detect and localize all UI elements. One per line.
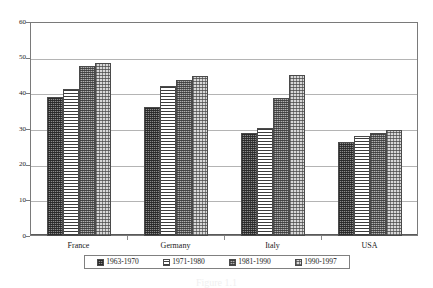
legend-item-1990-1997: 1990-1997: [295, 258, 337, 266]
x-tick-mark-2: [224, 236, 225, 240]
x-tick-mark-1: [127, 236, 128, 240]
y-tick-label-60: 60: [6, 19, 26, 26]
bar-italy-1963-1970: [241, 133, 257, 236]
bar-group-usa: [321, 22, 418, 236]
x-label-italy: Italy: [224, 241, 321, 251]
legend-swatch-icon-1990-1997: [295, 259, 302, 266]
bar-usa-1963-1970: [338, 142, 354, 236]
bar-chart: 60 50 40 30 20 10 0: [0, 0, 433, 288]
y-tick-label-50: 50: [6, 54, 26, 61]
legend-label-1990-1997: 1990-1997: [304, 258, 337, 266]
x-axis-labels: France Germany Italy USA: [30, 241, 418, 251]
bar-usa-1990-1997: [386, 130, 402, 236]
bar-france-1990-1997: [95, 63, 111, 236]
figure-caption: Figure 1.1: [0, 277, 433, 288]
x-label-france: France: [30, 241, 127, 251]
x-tick-mark-3: [321, 236, 322, 240]
bar-italy-1981-1990: [273, 98, 289, 236]
legend-item-1971-1980: 1971-1980: [163, 258, 205, 266]
bar-france-1981-1990: [79, 66, 95, 236]
chart-legend: 1963-1970 1971-1980 1981-1990 1990-1997: [84, 255, 350, 269]
legend-swatch-icon-1971-1980: [163, 259, 170, 266]
y-tick-label-10: 10: [6, 197, 26, 204]
bar-group-france: [30, 22, 127, 236]
bar-group-italy: [224, 22, 321, 236]
x-label-germany: Germany: [127, 241, 224, 251]
bar-germany-1971-1980: [160, 86, 176, 236]
bar-france-1971-1980: [63, 89, 79, 236]
legend-swatch-icon-1981-1990: [229, 259, 236, 266]
x-label-usa: USA: [321, 241, 418, 251]
legend-swatch-icon-1963-1970: [97, 259, 104, 266]
y-tick-label-0: 0: [6, 233, 26, 240]
bar-groups: [30, 22, 418, 236]
bar-germany-1963-1970: [144, 107, 160, 236]
bar-germany-1981-1990: [176, 80, 192, 236]
y-tick-label-40: 40: [6, 90, 26, 97]
bar-group-germany: [127, 22, 224, 236]
y-tick-label-30: 30: [6, 126, 26, 133]
bar-usa-1981-1990: [370, 133, 386, 236]
bar-italy-1971-1980: [257, 128, 273, 236]
bar-france-1963-1970: [47, 97, 63, 236]
bar-usa-1971-1980: [354, 136, 370, 236]
y-tick-label-20: 20: [6, 161, 26, 168]
legend-label-1981-1990: 1981-1990: [238, 258, 271, 266]
legend-label-1963-1970: 1963-1970: [106, 258, 139, 266]
legend-label-1971-1980: 1971-1980: [172, 258, 205, 266]
legend-item-1963-1970: 1963-1970: [97, 258, 139, 266]
bar-italy-1990-1997: [289, 75, 305, 236]
bar-germany-1990-1997: [192, 76, 208, 236]
y-tick-mark-0: [26, 236, 30, 237]
legend-item-1981-1990: 1981-1990: [229, 258, 271, 266]
